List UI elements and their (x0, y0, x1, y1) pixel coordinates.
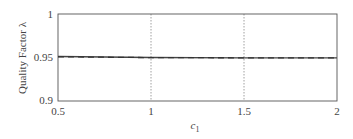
x-axis-label: c1 (191, 119, 200, 134)
y-axis-label: Quality Factor λ (16, 21, 28, 94)
chart: 1 0.95 0.9 0.5 1 1.5 2 c1 Quality Factor… (0, 0, 353, 139)
ytick-0-95: 0.95 (34, 51, 54, 63)
xtick-1-5: 1.5 (237, 105, 251, 117)
ytick-1: 1 (48, 8, 54, 20)
xtick-0-5: 0.5 (51, 105, 65, 117)
xtick-1: 1 (148, 105, 154, 117)
x-axis-label-sub: 1 (195, 125, 199, 134)
xtick-2: 2 (334, 105, 340, 117)
